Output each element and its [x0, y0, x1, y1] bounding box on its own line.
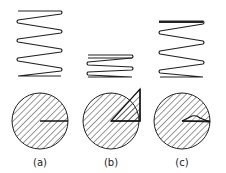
disk-c	[154, 93, 210, 149]
disk-a	[12, 93, 68, 149]
label-c: (c)	[175, 157, 188, 168]
label-b: (b)	[104, 157, 118, 168]
figure-canvas: (a) (b) (c)	[0, 0, 226, 173]
label-a: (a)	[33, 157, 47, 168]
spring-b	[87, 55, 133, 77]
spring-a	[17, 11, 62, 76]
spring-c	[159, 21, 204, 77]
disk-b	[83, 89, 140, 149]
